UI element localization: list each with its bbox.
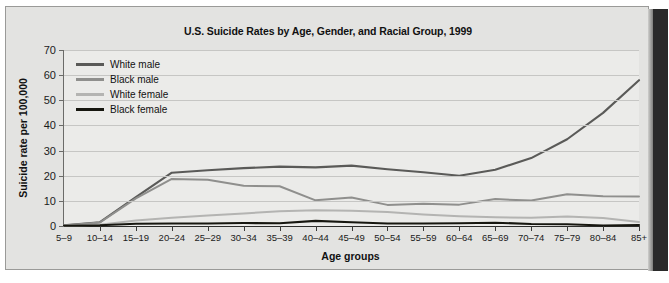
chart-title: U.S. Suicide Rates by Age, Gender, and R… (6, 25, 650, 37)
x-axis-tick (459, 226, 460, 231)
x-axis-tick (567, 226, 568, 231)
gridline (64, 176, 639, 177)
figure-root: U.S. Suicide Rates by Age, Gender, and R… (0, 0, 669, 283)
legend-item-white-female: White female (76, 87, 168, 102)
y-axis-tick-label: 50 (44, 94, 56, 106)
x-axis-tick-label: 5–9 (56, 232, 72, 243)
x-axis-tick (316, 226, 317, 231)
legend-swatch-icon (76, 108, 104, 111)
x-axis-tick (639, 226, 640, 231)
chart-panel: U.S. Suicide Rates by Age, Gender, and R… (5, 6, 649, 270)
page-gutter-shadow (653, 9, 668, 271)
y-axis-tick-label: 60 (44, 69, 56, 81)
x-axis-tick (244, 226, 245, 231)
x-axis-tick (280, 226, 281, 231)
y-axis-tick-label: 40 (44, 119, 56, 131)
x-axis-tick (387, 226, 388, 231)
x-axis-tick (603, 226, 604, 231)
x-axis-tick-label: 65–69 (482, 232, 508, 243)
legend-item-white-male: White male (76, 57, 168, 72)
legend-label: White male (110, 59, 160, 70)
x-axis-tick-label: 80–84 (590, 232, 616, 243)
x-axis-tick (531, 226, 532, 231)
y-axis-tick-label: 10 (44, 195, 56, 207)
legend-label: Black male (110, 74, 159, 85)
x-axis-tick (352, 226, 353, 231)
x-axis-tick-label: 35–39 (266, 232, 292, 243)
plot-area: White maleBlack maleWhite femaleBlack fe… (63, 50, 639, 227)
x-axis-tick-label: 50–54 (374, 232, 400, 243)
x-axis-tick (100, 226, 101, 231)
x-axis-title: Age groups (63, 250, 638, 262)
legend-label: White female (110, 89, 168, 100)
x-axis-tick (423, 226, 424, 231)
y-axis-tick (59, 226, 64, 227)
x-axis-tick-label: 55–59 (410, 232, 436, 243)
x-axis-tick (136, 226, 137, 231)
y-axis-tick (59, 201, 64, 202)
x-axis-tick-label: 70–74 (518, 232, 544, 243)
gridline (64, 50, 639, 51)
y-axis-tick-label: 30 (44, 145, 56, 157)
gridline (64, 125, 639, 126)
x-axis-tick (172, 226, 173, 231)
y-axis-title: Suicide rate per 100,000 (15, 50, 31, 226)
y-axis-tick (59, 50, 64, 51)
y-axis-tick-label: 0 (50, 220, 56, 232)
x-axis-tick-label: 40–44 (302, 232, 328, 243)
x-axis-tick-label: 85+ (631, 232, 647, 243)
legend-item-black-male: Black male (76, 72, 168, 87)
y-axis-tick-label: 70 (44, 44, 56, 56)
legend-swatch-icon (76, 78, 104, 81)
y-axis-tick (59, 176, 64, 177)
x-axis-tick-label: 25–29 (195, 232, 221, 243)
legend: White maleBlack maleWhite femaleBlack fe… (76, 57, 168, 117)
y-axis-tick (59, 100, 64, 101)
x-axis-tick (495, 226, 496, 231)
legend-item-black-female: Black female (76, 102, 168, 117)
legend-label: Black female (110, 104, 167, 115)
y-axis-tick (59, 75, 64, 76)
legend-swatch-icon (76, 93, 104, 96)
x-axis-tick-label: 30–34 (230, 232, 256, 243)
y-axis-tick-label: 20 (44, 170, 56, 182)
gridline (64, 151, 639, 152)
x-axis-tick-label: 75–79 (554, 232, 580, 243)
x-axis-tick-label: 20–24 (159, 232, 185, 243)
x-axis-tick-label: 15–19 (123, 232, 149, 243)
x-axis-tick-label: 45–49 (338, 232, 364, 243)
y-axis-tick (59, 151, 64, 152)
gridline (64, 201, 639, 202)
y-axis-tick (59, 125, 64, 126)
x-axis-tick-label: 10–14 (87, 232, 113, 243)
x-axis-tick-label: 60–64 (446, 232, 472, 243)
x-axis-tick (208, 226, 209, 231)
legend-swatch-icon (76, 63, 104, 66)
y-axis-title-text: Suicide rate per 100,000 (17, 78, 29, 198)
